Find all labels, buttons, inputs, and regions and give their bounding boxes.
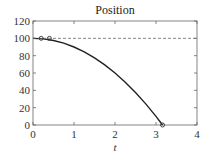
y-tick-label: 60 [19, 67, 31, 79]
x-tick-label: 2 [112, 128, 118, 140]
x-tick-label: 1 [71, 128, 77, 140]
y-tick-label: 20 [19, 102, 31, 114]
y-axis-ticks: 020406080100120 [14, 15, 198, 131]
y-tick-label: 100 [14, 32, 31, 44]
chart-title: Position [95, 3, 134, 17]
y-tick-label: 40 [19, 84, 31, 96]
y-tick-label: 120 [14, 15, 31, 27]
x-tick-label: 3 [153, 128, 159, 140]
position-line [33, 38, 163, 125]
x-tick-label: 0 [30, 128, 36, 140]
y-tick-label: 0 [25, 119, 31, 131]
position-chart: Position 01234 020406080100120 t [0, 0, 208, 162]
y-tick-label: 80 [19, 50, 31, 62]
x-tick-label: 4 [194, 128, 200, 140]
x-axis-ticks: 01234 [30, 21, 200, 140]
x-axis-label: t [113, 141, 117, 153]
series-layer [33, 36, 197, 127]
